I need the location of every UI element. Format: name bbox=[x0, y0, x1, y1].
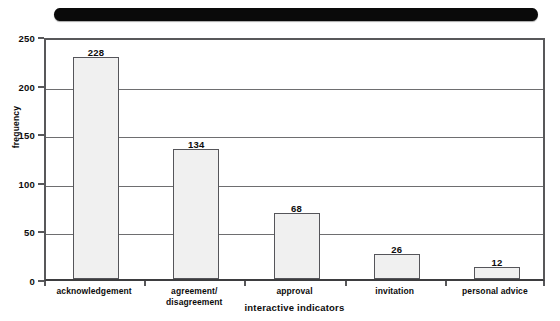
bar-value-label: 134 bbox=[188, 139, 204, 150]
y-tick-label: 50 bbox=[24, 227, 35, 238]
x-tick-label: approval bbox=[276, 286, 312, 297]
x-tick-label-line: acknowledgement bbox=[57, 286, 132, 297]
x-tick-label: personal advice bbox=[462, 286, 528, 297]
bar-value-label: 228 bbox=[88, 47, 104, 58]
bar[interactable] bbox=[73, 57, 119, 279]
y-tick-label: 200 bbox=[19, 81, 35, 92]
x-tick-label-line: approval bbox=[276, 286, 312, 297]
y-tick-label: 0 bbox=[30, 276, 35, 287]
bar[interactable] bbox=[274, 213, 320, 279]
x-tick-label-line: agreement/ bbox=[166, 286, 222, 297]
x-tick-label-line: personal advice bbox=[462, 286, 528, 297]
bar[interactable] bbox=[474, 267, 520, 279]
bar[interactable] bbox=[173, 149, 219, 279]
y-tick-label: 100 bbox=[19, 178, 35, 189]
y-tick-label: 250 bbox=[19, 33, 35, 44]
bar-chart-figure: frequency 050100150200250 228134682612 a… bbox=[0, 0, 560, 321]
gridline bbox=[46, 89, 543, 90]
x-tick-label: invitation bbox=[375, 286, 414, 297]
bar-value-label: 12 bbox=[491, 257, 502, 268]
bar-value-label: 68 bbox=[291, 203, 302, 214]
bar[interactable] bbox=[374, 254, 420, 279]
x-tick-label: acknowledgement bbox=[57, 286, 132, 297]
bar-value-label: 26 bbox=[391, 244, 402, 255]
gridline bbox=[46, 186, 543, 187]
y-axis-tick-labels: 050100150200250 bbox=[0, 38, 44, 281]
plot-area: 228134682612 bbox=[44, 38, 545, 281]
redacted-title-bar bbox=[54, 8, 538, 21]
gridline bbox=[46, 137, 543, 138]
x-axis-title: interactive indicators bbox=[44, 302, 545, 313]
x-tick-label-line: invitation bbox=[375, 286, 414, 297]
y-tick-label: 150 bbox=[19, 130, 35, 141]
